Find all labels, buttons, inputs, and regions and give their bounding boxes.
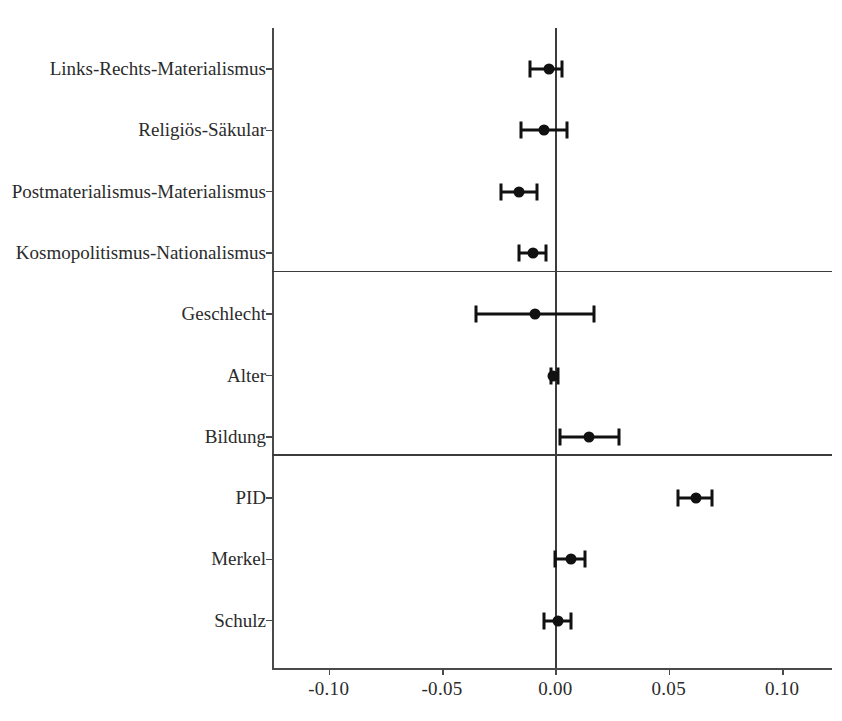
- x-axis-tick-label: -0.10: [308, 678, 349, 700]
- x-axis-tick: [669, 668, 671, 675]
- x-axis-tick-label: 0.00: [538, 678, 572, 700]
- coefficient-plot-figure: Links-Rechts-MaterialismusReligiös-Säkul…: [0, 0, 842, 721]
- x-axis-tick: [782, 668, 784, 675]
- x-axis-tick: [555, 668, 557, 675]
- confidence-interval-cap-high: [561, 61, 564, 78]
- y-axis-tick: [266, 620, 272, 622]
- category-label-column: Links-Rechts-MaterialismusReligiös-Säkul…: [0, 0, 266, 721]
- y-axis-tick: [266, 375, 272, 377]
- y-axis-tick: [266, 68, 272, 70]
- group-separator-line: [272, 271, 832, 272]
- point-estimate-marker: [584, 431, 595, 442]
- zero-reference-line: [555, 28, 556, 668]
- confidence-interval-cap-low: [543, 612, 546, 629]
- point-estimate-marker: [529, 309, 540, 320]
- y-axis-tick: [266, 252, 272, 254]
- confidence-interval-cap-low: [554, 551, 557, 568]
- confidence-interval-cap-high: [710, 490, 713, 507]
- confidence-interval-cap-high: [545, 244, 548, 261]
- x-axis-tick: [329, 668, 331, 675]
- confidence-interval-cap-low: [558, 428, 561, 445]
- category-label: Merkel: [211, 548, 266, 570]
- group-separator-line: [272, 454, 832, 455]
- confidence-interval-cap-low: [475, 306, 478, 323]
- category-label: Links-Rechts-Materialismus: [50, 58, 266, 80]
- point-estimate-marker: [543, 64, 554, 75]
- confidence-interval-cap-low: [529, 61, 532, 78]
- point-estimate-marker: [539, 125, 550, 136]
- y-axis-tick: [266, 559, 272, 561]
- confidence-interval-cap-high: [536, 183, 539, 200]
- point-estimate-marker: [690, 493, 701, 504]
- category-label: Religiös-Säkular: [138, 119, 266, 141]
- confidence-interval-cap-low: [520, 122, 523, 139]
- point-estimate-marker: [527, 247, 538, 258]
- y-axis-tick: [266, 497, 272, 499]
- category-label: Geschlecht: [182, 303, 266, 325]
- x-axis-tick-label: 0.05: [652, 678, 686, 700]
- confidence-interval-cap-high: [592, 306, 595, 323]
- y-axis-tick: [266, 436, 272, 438]
- confidence-interval-cap-low: [518, 244, 521, 261]
- confidence-interval-cap-high: [617, 428, 620, 445]
- category-label: Alter: [227, 365, 266, 387]
- confidence-interval-cap-high: [583, 551, 586, 568]
- confidence-interval-cap-low: [499, 183, 502, 200]
- y-axis-spine: [272, 28, 274, 668]
- x-axis-tick-label: -0.05: [421, 678, 462, 700]
- x-axis-tick-label: 0.10: [765, 678, 799, 700]
- y-axis-tick: [266, 191, 272, 193]
- category-label: Kosmopolitismus-Nationalismus: [16, 242, 266, 264]
- point-estimate-marker: [552, 615, 563, 626]
- confidence-interval-cap-high: [565, 122, 568, 139]
- category-label: PID: [235, 487, 266, 509]
- point-estimate-marker: [566, 554, 577, 565]
- confidence-interval-cap-high: [570, 612, 573, 629]
- x-axis-spine: [272, 668, 832, 670]
- y-axis-tick: [266, 130, 272, 132]
- point-estimate-marker: [548, 370, 559, 381]
- category-label: Schulz: [214, 610, 266, 632]
- confidence-interval-cap-low: [676, 490, 679, 507]
- category-label: Bildung: [205, 426, 266, 448]
- point-estimate-marker: [514, 186, 525, 197]
- category-label: Postmaterialismus-Materialismus: [12, 181, 266, 203]
- y-axis-tick: [266, 313, 272, 315]
- x-axis-tick: [442, 668, 444, 675]
